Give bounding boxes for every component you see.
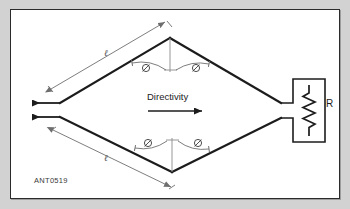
ext-line-top-start: [48, 86, 53, 92]
ext-line-top-end: [167, 21, 172, 27]
vertex-center-lines: [170, 38, 172, 172]
dimension-top: [48, 21, 172, 92]
phi-symbol-top-left: [142, 64, 149, 71]
resistor-box-outline: [281, 79, 325, 142]
ext-line-bottom-end: [169, 185, 175, 189]
figure-id-label: ANT0519: [34, 176, 68, 185]
dimension-line-top: [51, 22, 165, 89]
resistor-label: R: [326, 98, 333, 109]
leg-lower-right: [172, 118, 281, 172]
dimension-line-bottom: [53, 130, 171, 187]
phi-symbol-bottom-left: [144, 139, 151, 146]
phi-symbol-top-right: [192, 64, 199, 71]
feed-lines: [32, 103, 60, 117]
leg-lower-left: [60, 117, 172, 172]
figure-page: Directivity R ℓ ℓ ANT0519: [0, 0, 350, 209]
phi-symbol-bottom-right: [194, 139, 201, 146]
vertex-center-ticks: [164, 70, 179, 140]
directivity-label: Directivity: [147, 91, 188, 102]
length-label-top: ℓ: [104, 48, 108, 58]
resistor-enclosure: [281, 79, 325, 142]
rhombic-element: [60, 38, 281, 172]
angle-arc-bottom-right: [178, 141, 209, 149]
resistor-zigzag: [303, 85, 315, 136]
angle-symbols: [142, 64, 201, 146]
dimension-bottom: [50, 127, 175, 189]
length-label-bottom: ℓ: [104, 153, 108, 163]
